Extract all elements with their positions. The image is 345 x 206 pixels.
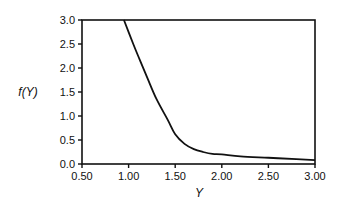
x-tick-label: 1.50 [164, 170, 185, 182]
y-tick-label: 2.5 [60, 38, 75, 50]
y-axis-ticks: 0.00.51.01.52.02.53.0 [60, 14, 82, 170]
data-line [124, 20, 315, 160]
y-tick-label: 1.0 [60, 110, 75, 122]
plot-border [82, 20, 315, 164]
y-tick-label: 1.5 [60, 86, 75, 98]
x-tick-label: 1.00 [118, 170, 139, 182]
y-axis-label: f(Y) [18, 85, 37, 99]
x-tick-label: 2.50 [258, 170, 279, 182]
plot-frame [82, 20, 315, 164]
y-tick-label: 3.0 [60, 14, 75, 26]
y-tick-label: 0.5 [60, 134, 75, 146]
y-tick-label: 2.0 [60, 62, 75, 74]
x-tick-label: 3.00 [304, 170, 325, 182]
x-axis-ticks: 0.501.001.502.002.503.00 [71, 164, 325, 182]
x-axis-label: Y [195, 186, 204, 200]
x-tick-label: 0.50 [71, 170, 92, 182]
x-tick-label: 2.00 [211, 170, 232, 182]
y-tick-label: 0.0 [60, 158, 75, 170]
chart: 0.00.51.01.52.02.53.0 0.501.001.502.002.… [0, 0, 345, 206]
